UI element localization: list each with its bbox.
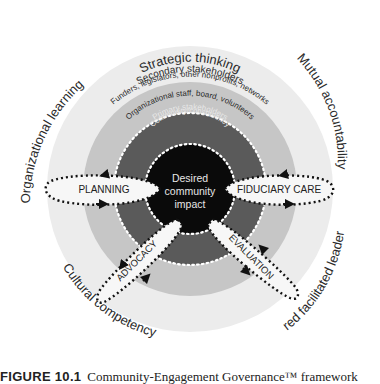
fiduciary-care-label: FIDUCIARY CARE xyxy=(237,184,321,195)
core-label-line3: impact xyxy=(175,198,206,210)
figure-caption: FIGURE 10.1Community-Engagement Governan… xyxy=(0,369,380,384)
figure-number: FIGURE 10.1 xyxy=(0,369,81,384)
core-label-line2: community xyxy=(165,185,217,197)
planning-label: PLANNING xyxy=(78,184,129,195)
figure-title: Community-Engagement Governance™ framewo… xyxy=(87,369,358,384)
core-label-line1: Desired xyxy=(172,172,208,184)
governance-framework-diagram: Strategic thinking Mutual accountability… xyxy=(0,0,380,384)
